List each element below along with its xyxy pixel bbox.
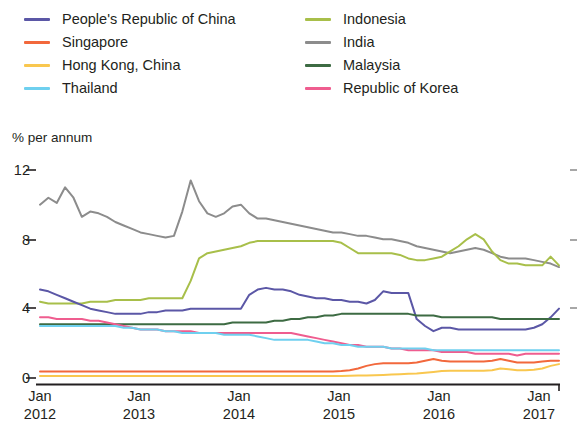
legend-swatch-prc	[24, 18, 50, 21]
legend-label-indonesia: Indonesia	[343, 12, 406, 27]
x-tick-month-2014: Jan	[223, 388, 255, 406]
legend-column-right: Indonesia India Malaysia Republic of Kor…	[305, 8, 458, 100]
legend-item-singapore: Singapore	[24, 31, 236, 54]
legend-item-indonesia: Indonesia	[305, 8, 458, 31]
x-tick-year-2013: 2013	[123, 406, 155, 424]
legend-item-thailand: Thailand	[24, 77, 236, 100]
legend-swatch-singapore	[24, 41, 50, 44]
x-tick-2014: Jan 2014	[223, 388, 255, 423]
x-tick-2015: Jan 2015	[323, 388, 355, 423]
legend-label-malaysia: Malaysia	[343, 58, 400, 73]
legend-swatch-india	[305, 41, 331, 44]
legend-item-india: India	[305, 31, 458, 54]
x-tick-year-2014: 2014	[223, 406, 255, 424]
y-axis-label: % per annum	[12, 130, 92, 145]
legend-label-korea: Republic of Korea	[343, 81, 458, 96]
legend-label-singapore: Singapore	[62, 35, 128, 50]
x-tick-month-2015: Jan	[323, 388, 355, 406]
legend-swatch-korea	[305, 87, 331, 90]
axis-layer	[26, 170, 577, 391]
chart-svg	[0, 152, 579, 392]
series-line-indonesia	[40, 234, 559, 303]
legend-label-thailand: Thailand	[62, 81, 118, 96]
x-tick-2017: Jan 2017	[523, 388, 555, 423]
x-tick-year-2012: 2012	[24, 406, 56, 424]
series-line-hong-kong-china	[40, 364, 559, 376]
x-tick-month-2012: Jan	[24, 388, 56, 406]
x-tick-2012: Jan 2012	[24, 388, 56, 423]
x-tick-year-2015: 2015	[323, 406, 355, 424]
x-tick-year-2016: 2016	[423, 406, 455, 424]
legend-item-malaysia: Malaysia	[305, 54, 458, 77]
x-tick-month-2017: Jan	[523, 388, 555, 406]
legend-label-prc: People's Republic of China	[62, 12, 236, 27]
series-layer	[40, 180, 559, 376]
x-tick-month-2013: Jan	[123, 388, 155, 406]
legend-item-prc: People's Republic of China	[24, 8, 236, 31]
legend-column-left: People's Republic of China Singapore Hon…	[24, 8, 236, 100]
legend-swatch-indonesia	[305, 18, 331, 21]
legend-swatch-thailand	[24, 87, 50, 90]
x-axis-ticks: Jan 2012 Jan 2013 Jan 2014 Jan 2015 Jan …	[0, 388, 579, 438]
chart-legend: People's Republic of China Singapore Hon…	[0, 0, 579, 115]
legend-label-india: India	[343, 35, 374, 50]
legend-label-hongkong: Hong Kong, China	[62, 58, 181, 73]
chart-page: People's Republic of China Singapore Hon…	[0, 0, 579, 438]
legend-swatch-malaysia	[305, 64, 331, 67]
series-line-india	[40, 180, 559, 267]
series-line-malaysia	[40, 314, 559, 324]
series-line-singapore	[40, 359, 559, 371]
x-tick-2013: Jan 2013	[123, 388, 155, 423]
legend-swatch-hongkong	[24, 64, 50, 67]
legend-item-korea: Republic of Korea	[305, 77, 458, 100]
legend-item-hongkong: Hong Kong, China	[24, 54, 236, 77]
x-tick-month-2016: Jan	[423, 388, 455, 406]
plot-area	[0, 152, 579, 392]
x-tick-2016: Jan 2016	[423, 388, 455, 423]
x-tick-year-2017: 2017	[523, 406, 555, 424]
